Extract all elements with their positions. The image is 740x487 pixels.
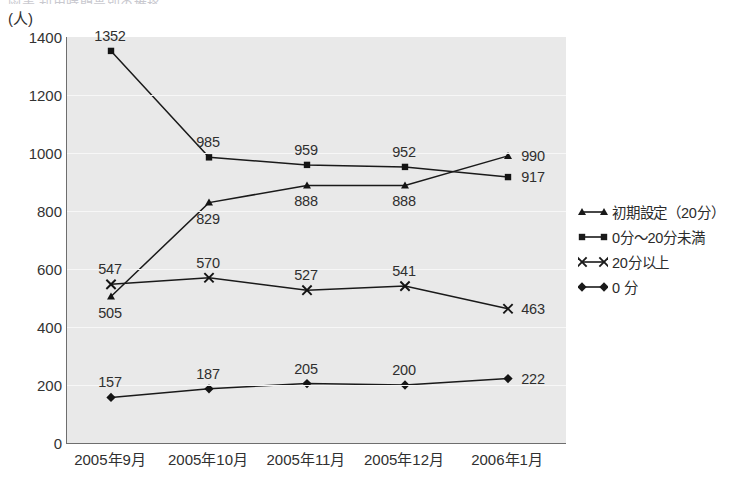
data-point-marker (302, 379, 311, 388)
data-point-label: 157 (98, 374, 122, 390)
y-axis-tick: 400 (4, 319, 62, 336)
legend-item[interactable]: 初期設定（20分） (578, 199, 738, 224)
legend-label: 20分以上 (608, 251, 669, 272)
y-axis-tick: 1400 (4, 29, 62, 46)
data-point-label: 888 (392, 193, 416, 209)
y-axis-tick: 600 (4, 261, 62, 278)
clipped-header-text: 図表 利用時間帯別の推移 (8, 0, 428, 4)
square-marker (578, 230, 608, 244)
data-point-marker (402, 164, 408, 170)
data-point-label: 990 (521, 148, 545, 164)
legend-label: 初期設定（20分） (608, 201, 724, 222)
data-point-label: 829 (196, 211, 220, 227)
legend-item[interactable]: 0分〜20分未満 (578, 224, 738, 249)
data-point-label: 917 (521, 169, 545, 185)
legend-item[interactable]: 20分以上 (578, 249, 738, 274)
gridline (67, 211, 566, 212)
data-point-marker (106, 393, 115, 402)
plot-area (66, 37, 566, 444)
chart-legend: 初期設定（20分）0分〜20分未満20分以上0 分 (578, 199, 738, 299)
legend-item[interactable]: 0 分 (578, 274, 738, 299)
data-point-label: 541 (392, 263, 416, 279)
x-axis-tick: 2005年9月 (74, 448, 146, 469)
y-axis-tick: 200 (4, 377, 62, 394)
data-point-label: 187 (196, 366, 220, 382)
triangle-marker (578, 205, 608, 219)
data-point-label: 200 (392, 362, 416, 378)
series-line (111, 51, 508, 177)
data-point-label: 952 (392, 144, 416, 160)
data-point-marker (505, 174, 511, 180)
data-point-marker (503, 374, 512, 383)
cross-marker (578, 255, 608, 269)
data-point-label: 222 (521, 371, 545, 387)
data-point-marker (206, 154, 212, 160)
data-point-marker (108, 48, 114, 54)
data-point-marker (304, 162, 310, 168)
data-point-label: 570 (196, 255, 220, 271)
data-point-label: 505 (98, 305, 122, 321)
x-axis-tick-labels: 2005年9月2005年10月2005年11月2005年12月2006年1月 (66, 448, 565, 478)
x-axis-tick: 2005年12月 (364, 448, 444, 469)
y-axis-tick: 800 (4, 203, 62, 220)
data-point-label: 463 (521, 301, 545, 317)
legend-label: 0 分 (608, 276, 638, 297)
y-axis-tick: 1000 (4, 145, 62, 162)
data-point-label: 959 (294, 142, 318, 158)
x-axis-tick: 2005年11月 (267, 448, 346, 469)
y-axis-tick: 0 (4, 435, 62, 452)
gridline (67, 385, 566, 386)
data-point-label: 527 (294, 267, 318, 283)
data-point-label: 205 (294, 361, 318, 377)
data-point-label: 547 (98, 261, 122, 277)
y-axis-tick: 1200 (4, 87, 62, 104)
gridline (67, 327, 566, 328)
chart-canvas: 図表 利用時間帯別の推移 (人) 14001200100080060040020… (0, 0, 740, 487)
series-lines-layer (67, 37, 566, 443)
diamond-marker (578, 280, 608, 294)
gridline (67, 95, 566, 96)
data-point-label: 985 (196, 134, 220, 150)
data-point-label: 888 (294, 193, 318, 209)
y-axis-tick-labels: 1400120010008006004002000 (0, 0, 62, 487)
legend-label: 0分〜20分未満 (608, 226, 705, 247)
x-axis-tick: 2006年1月 (471, 448, 543, 469)
data-point-label: 1352 (94, 28, 125, 44)
x-axis-tick: 2005年10月 (168, 448, 248, 469)
